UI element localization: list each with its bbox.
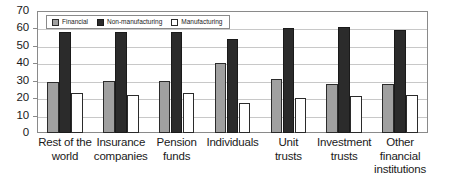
x-axis-category-label: Insurance companies <box>93 136 149 163</box>
legend-swatch-icon <box>52 19 59 26</box>
x-axis-category-label: Individuals <box>205 136 261 150</box>
bars-layer <box>37 11 428 133</box>
bar <box>47 82 59 133</box>
x-axis-category-label: Pension funds <box>149 136 205 163</box>
bar-group <box>271 11 307 133</box>
y-axis-tick-label: 50 <box>17 40 29 52</box>
x-axis-category-label: Rest of the world <box>37 136 93 163</box>
bar <box>159 81 171 133</box>
bar <box>338 27 350 133</box>
x-axis-category-label: Investment trusts <box>316 136 372 163</box>
y-axis-tick-labels: 010203040506070 <box>0 0 33 194</box>
bar-group <box>215 11 251 133</box>
bar-group <box>159 11 195 133</box>
bar <box>71 93 83 133</box>
bar <box>283 28 295 133</box>
bar <box>215 63 227 133</box>
chart-legend: FinancialNon-manufacturingManufacturing <box>46 15 230 29</box>
y-axis-tick-label: 40 <box>17 58 29 70</box>
bar <box>394 30 406 133</box>
bar <box>183 93 195 133</box>
legend-entry: Financial <box>52 19 88 26</box>
bar <box>271 79 283 133</box>
legend-label: Manufacturing <box>181 19 222 26</box>
bar-group <box>103 11 139 133</box>
bar <box>103 81 115 133</box>
y-axis-tick-label: 0 <box>23 127 29 139</box>
x-axis-category-label: Other financial institutions <box>372 136 428 177</box>
bar-group <box>382 11 418 133</box>
y-axis-tick-label: 60 <box>17 23 29 35</box>
bar <box>171 32 183 133</box>
bar <box>115 32 127 133</box>
bar-group <box>326 11 362 133</box>
bar <box>382 84 394 133</box>
x-axis-category-label: Unit trusts <box>260 136 316 163</box>
legend-swatch-icon <box>171 19 178 26</box>
y-axis-tick-label: 20 <box>17 92 29 104</box>
bar <box>239 103 251 133</box>
legend-entry: Manufacturing <box>171 19 222 26</box>
y-axis-tick-label: 30 <box>17 75 29 87</box>
bar <box>227 39 239 133</box>
y-axis-tick-label: 10 <box>17 110 29 122</box>
legend-label: Non-manufacturing <box>107 19 162 26</box>
bar <box>350 96 362 133</box>
bar <box>326 84 338 133</box>
bar-group <box>47 11 83 133</box>
legend-swatch-icon <box>97 19 104 26</box>
legend-entry: Non-manufacturing <box>97 19 162 26</box>
bar <box>127 95 139 133</box>
legend-label: Financial <box>62 19 88 26</box>
bar-chart: 010203040506070 FinancialNon-manufacturi… <box>0 0 450 194</box>
y-axis-tick-label: 70 <box>17 5 29 17</box>
bar <box>406 95 418 133</box>
bar <box>59 32 71 133</box>
bar <box>295 98 307 133</box>
x-axis-category-labels: Rest of the worldInsurance companiesPens… <box>37 136 428 192</box>
